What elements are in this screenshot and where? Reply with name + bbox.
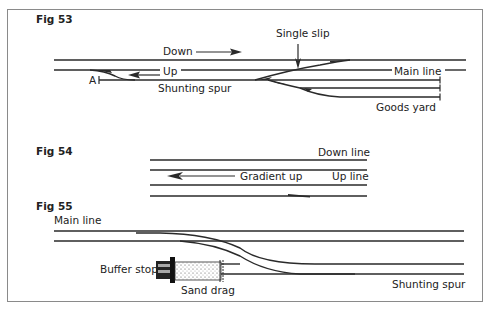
buffer-stop-icon [156,257,175,283]
figure-55: Fig 55 Main line Buffer stop Sand drag S… [36,200,466,296]
fig55-shunting-spur-label: Shunting spur [392,278,466,290]
fig55-diverge-track-outer [136,233,464,264]
fig55-sand-drag-label: Sand drag [181,284,235,296]
fig53-point-a-label: A [89,74,97,86]
fig54-up-line-label: Up line [332,170,369,182]
fig53-goods-yard-label: Goods yard [376,101,436,113]
fig55-buffer-stop-label: Buffer stop [100,263,158,275]
fig54-trap-point [288,194,310,198]
down-arrow-icon [295,44,301,69]
figure-54: Fig 54 Down line Gradient up Up line [36,145,370,198]
fig55-title: Fig 55 [36,200,73,212]
fig53-main-line-label: Main line [394,65,441,77]
fig53-up-label: Up [163,65,178,77]
fig53-goods-yard-track-2 [268,80,440,88]
fig54-down-line-label: Down line [318,146,370,158]
right-arrow-icon [196,49,242,56]
fig53-shunting-spur-label: Shunting spur [158,82,232,94]
left-arrow-icon [128,72,160,79]
fig54-gradient-up-label: Gradient up [240,170,303,182]
fig53-down-label: Down [163,45,193,57]
fig53-title: Fig 53 [36,13,73,25]
figure-53: Fig 53 Down Single slip Up Main line A [36,13,466,113]
fig53-single-slip-label: Single slip [276,27,330,39]
track-diagrams: Fig 53 Down Single slip Up Main line A [0,0,494,309]
fig54-title: Fig 54 [36,145,73,157]
left-arrow-icon [167,172,235,180]
sand-drag-icon [175,260,223,282]
fig55-main-line-label: Main line [54,214,101,226]
fig53-goods-yard-track-3 [300,88,440,97]
